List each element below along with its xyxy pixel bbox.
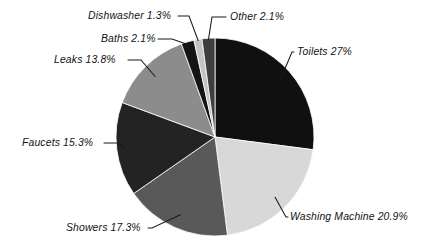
slice-label-faucets: Faucets 15.3% xyxy=(22,138,93,148)
slice-label-baths: Baths 2.1% xyxy=(101,34,156,44)
slice-label-leaks: Leaks 13.8% xyxy=(54,55,116,65)
slice-label-dishwasher: Dishwasher 1.3% xyxy=(88,11,171,21)
slice-label-washing-machine: Washing Machine 20.9% xyxy=(290,212,408,222)
slice-label-toilets: Toilets 27% xyxy=(297,47,352,57)
pie-chart-page: Toilets 27% Washing Machine 20.9% Shower… xyxy=(0,0,448,252)
pie-slices-group xyxy=(116,38,314,236)
slice-label-other: Other 2.1% xyxy=(230,12,284,22)
leader-line-dishwasher xyxy=(178,16,198,40)
slice-label-showers: Showers 17.3% xyxy=(66,223,141,233)
leader-line-other xyxy=(209,17,226,39)
